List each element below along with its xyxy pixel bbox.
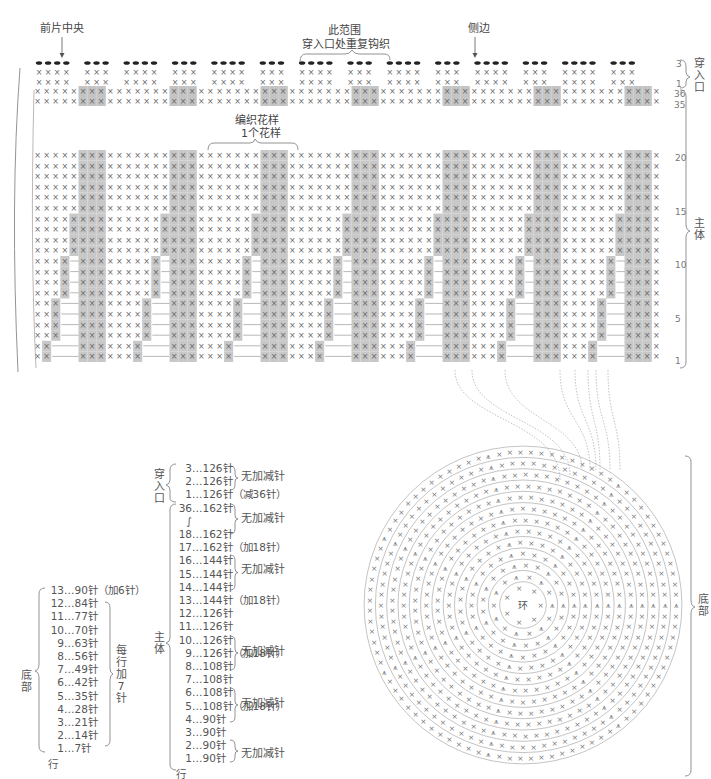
- svg-text:×: ×: [52, 310, 59, 319]
- svg-text:×: ×: [453, 342, 460, 351]
- svg-text:×: ×: [535, 342, 542, 351]
- svg-text:×: ×: [289, 87, 296, 96]
- svg-text:×: ×: [419, 517, 425, 526]
- svg-text:×: ×: [507, 193, 514, 202]
- svg-text:×: ×: [371, 246, 378, 255]
- svg-text:×: ×: [289, 278, 296, 287]
- svg-text:×: ×: [448, 554, 454, 563]
- stitch-count: …108针: [192, 700, 233, 712]
- row-index: 13: [48, 584, 64, 597]
- svg-text:×: ×: [630, 672, 636, 681]
- svg-text:×: ×: [562, 278, 569, 287]
- svg-text:×: ×: [523, 686, 529, 695]
- stitch-count: …126针: [192, 647, 233, 659]
- svg-text:×: ×: [525, 675, 531, 684]
- svg-text:×: ×: [52, 162, 59, 171]
- svg-text:×: ×: [107, 331, 114, 340]
- svg-text:×: ×: [496, 450, 502, 459]
- svg-text:×: ×: [516, 162, 523, 171]
- svg-text:×: ×: [445, 694, 451, 703]
- svg-text:×: ×: [180, 236, 187, 245]
- svg-text:×: ×: [52, 299, 59, 308]
- svg-text:×: ×: [307, 162, 314, 171]
- svg-text:×: ×: [89, 321, 96, 330]
- svg-text:×: ×: [125, 162, 132, 171]
- svg-text:×: ×: [234, 289, 241, 298]
- svg-text:×: ×: [416, 310, 423, 319]
- svg-text:×: ×: [262, 352, 269, 361]
- svg-text:×: ×: [617, 246, 624, 255]
- svg-text:×: ×: [225, 162, 232, 171]
- svg-text:×: ×: [589, 204, 596, 213]
- svg-text:×: ×: [580, 215, 587, 224]
- svg-text:×: ×: [407, 331, 414, 340]
- svg-text:×: ×: [416, 321, 423, 330]
- svg-text:×: ×: [610, 522, 616, 531]
- svg-text:×: ×: [546, 588, 552, 597]
- svg-text:×: ×: [644, 331, 651, 340]
- svg-text:×: ×: [353, 162, 360, 171]
- svg-text:×: ×: [609, 506, 615, 515]
- svg-text:×: ×: [377, 658, 383, 667]
- svg-text:×: ×: [116, 204, 123, 213]
- svg-text:×: ×: [462, 268, 469, 277]
- svg-text:×: ×: [650, 590, 656, 599]
- no-change-label: 无加减针: [241, 512, 285, 525]
- svg-text:×: ×: [162, 193, 169, 202]
- svg-text:×: ×: [559, 749, 565, 758]
- svg-text:×: ×: [271, 97, 278, 106]
- svg-text:×: ×: [415, 628, 421, 637]
- svg-text:×: ×: [635, 310, 642, 319]
- svg-text:×: ×: [298, 151, 305, 160]
- bottom-row-label: 行: [48, 758, 58, 771]
- svg-text:×: ×: [180, 352, 187, 361]
- stitch-count: …162针: [192, 502, 233, 514]
- svg-text:×: ×: [34, 236, 41, 245]
- svg-text:×: ×: [365, 68, 372, 77]
- svg-text:×: ×: [63, 68, 70, 77]
- svg-text:×: ×: [362, 331, 369, 340]
- svg-text:×: ×: [125, 331, 132, 340]
- svg-text:×: ×: [489, 257, 496, 266]
- svg-text:×: ×: [650, 612, 656, 621]
- svg-text:⩚: ⩚: [486, 452, 491, 461]
- svg-text:×: ×: [152, 162, 159, 171]
- svg-text:×: ×: [462, 87, 469, 96]
- svg-text:×: ×: [34, 321, 41, 330]
- svg-text:×: ×: [571, 204, 578, 213]
- svg-text:×: ×: [43, 97, 50, 106]
- svg-text:×: ×: [444, 246, 451, 255]
- svg-text:×: ×: [216, 299, 223, 308]
- svg-text:×: ×: [234, 236, 241, 245]
- svg-text:×: ×: [316, 246, 323, 255]
- svg-text:×: ×: [523, 78, 530, 87]
- svg-text:×: ×: [553, 204, 560, 213]
- svg-text:×: ×: [469, 638, 475, 647]
- svg-text:×: ×: [448, 520, 454, 529]
- svg-text:×: ×: [455, 656, 461, 665]
- svg-text:⩚: ⩚: [423, 554, 428, 563]
- svg-text:×: ×: [514, 527, 520, 536]
- svg-text:×: ×: [308, 68, 315, 77]
- svg-text:×: ×: [455, 546, 461, 555]
- svg-text:×: ×: [116, 331, 123, 340]
- svg-text:⩚: ⩚: [413, 549, 418, 558]
- svg-text:×: ×: [189, 183, 196, 192]
- svg-text:×: ×: [489, 225, 496, 234]
- svg-text:×: ×: [598, 289, 605, 298]
- svg-text:×: ×: [588, 669, 594, 678]
- svg-text:×: ×: [362, 289, 369, 298]
- svg-text:×: ×: [123, 78, 130, 87]
- svg-text:×: ×: [589, 464, 595, 473]
- stitch-count: …63针: [64, 637, 98, 649]
- svg-text:×: ×: [125, 342, 132, 351]
- svg-text:×: ×: [80, 87, 87, 96]
- svg-text:×: ×: [453, 193, 460, 202]
- svg-text:×: ×: [443, 706, 449, 715]
- svg-text:⩚: ⩚: [489, 739, 494, 748]
- svg-text:×: ×: [162, 162, 169, 171]
- svg-text:×: ×: [459, 525, 465, 534]
- svg-text:×: ×: [280, 246, 287, 255]
- svg-text:×: ×: [616, 590, 622, 599]
- svg-text:×: ×: [107, 352, 114, 361]
